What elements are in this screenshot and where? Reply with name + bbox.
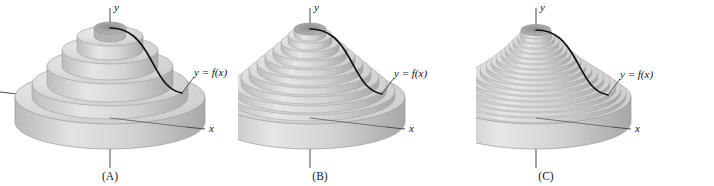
shell-stack xyxy=(238,27,395,121)
panel-b: y xyxy=(238,0,476,186)
shell-stack xyxy=(476,27,626,123)
panel-a: y x xyxy=(0,0,238,186)
panel-c-diagram: y xyxy=(476,0,714,186)
panel-a-diagram: y x xyxy=(0,0,238,186)
curve-label: y = f(x) xyxy=(393,67,427,80)
panel-c: y xyxy=(476,0,714,186)
y-axis-label: y xyxy=(539,1,545,13)
curve-label: y = f(x) xyxy=(193,66,227,79)
panel-caption: (C) xyxy=(538,170,554,183)
y-axis-label: y xyxy=(113,1,119,13)
panel-caption: (A) xyxy=(102,170,118,183)
curve-label: y = f(x) xyxy=(619,68,653,81)
x-axis-label: x xyxy=(634,122,640,134)
y-axis-label: y xyxy=(313,1,319,13)
solid-of-revolution-figure: y x xyxy=(0,0,714,186)
panel-b-diagram: y xyxy=(238,0,476,186)
x-axis-label: x xyxy=(208,122,214,134)
x-axis-label: x xyxy=(408,122,414,134)
panel-caption: (B) xyxy=(312,170,328,183)
